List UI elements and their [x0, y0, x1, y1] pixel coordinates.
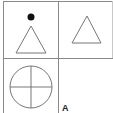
- grid-svg: [0, 0, 113, 113]
- puzzle-grid: A: [0, 0, 113, 113]
- cell-bottom-left: [10, 66, 52, 108]
- filled-dot-icon: [28, 14, 35, 21]
- option-label: A: [62, 104, 69, 113]
- triangle-icon: [72, 16, 101, 43]
- cell-top-left: [16, 14, 46, 54]
- grid-lines: [3, 1, 113, 113]
- triangle-icon: [16, 26, 46, 53]
- cell-top-right: [72, 16, 101, 43]
